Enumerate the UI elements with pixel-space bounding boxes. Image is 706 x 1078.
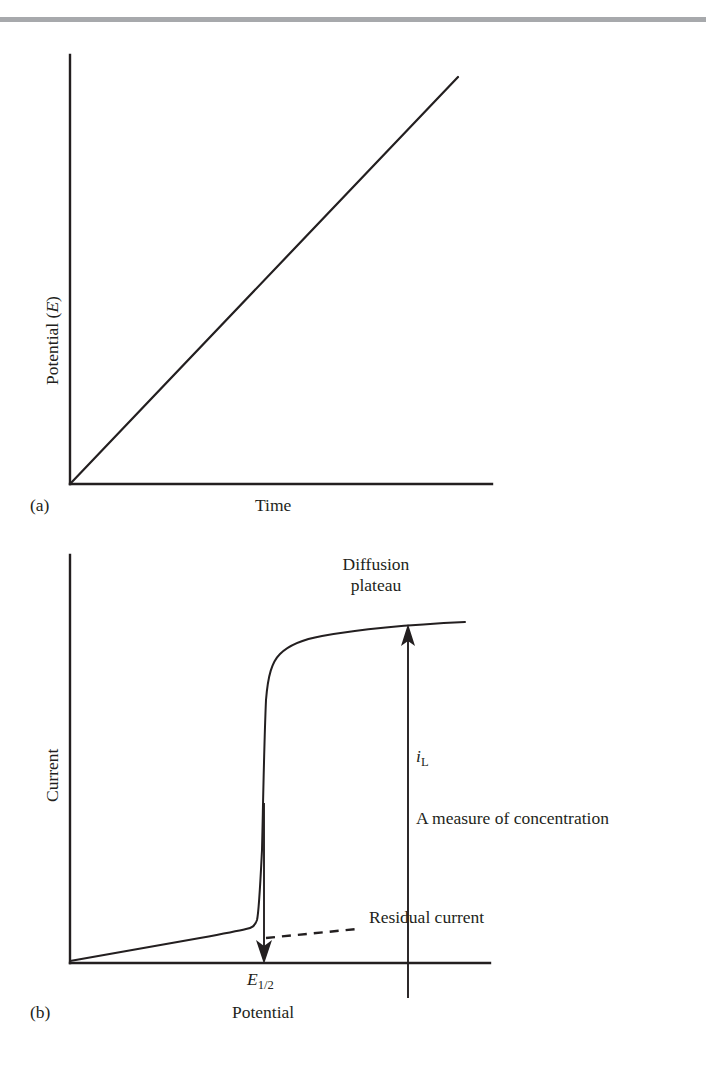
panel-b-polarographic-wave: Current Diffusion plateau iL A measure o… [0,540,706,1050]
panel-b-halfwave-symbol: E [247,969,258,989]
panel-b-residual-dashed-line [266,929,357,938]
header-divider-rule [0,17,706,22]
panel-b-tag: (b) [30,1002,50,1023]
panel-a-ramp-line [70,77,458,484]
panel-b-halfwave-subscript: 1/2 [258,978,274,992]
panel-a-y-axis-label-prefix: Potential ( [42,313,62,385]
panel-b-x-axis-label: Potential [232,1002,294,1023]
figure-root: Potential (E) Time (a) Current Diffusion [0,0,706,1078]
panel-a-tag: (a) [30,495,49,516]
panel-a-x-axis-label: Time [255,495,291,516]
panel-a-plot-svg [0,40,706,540]
panel-b-halfwave-potential-label: E1/2 [247,969,274,992]
panel-b-plot-svg [0,540,706,1050]
panel-a-y-axis-label: Potential (E) [42,296,63,385]
panel-a-y-axis-label-suffix: ) [42,296,62,302]
panel-b-limiting-current-subscript: L [421,755,429,769]
panel-b-diffusion-plateau-line1: Diffusion [343,554,410,574]
panel-b-y-axis-label: Current [42,749,63,802]
panel-b-diffusion-plateau-annotation: Diffusion plateau [316,554,436,597]
panel-b-concentration-note: A measure of concentration [416,808,609,829]
panel-b-limiting-current-label: iL [416,746,429,769]
panel-a-linear-sweep: Potential (E) Time (a) [0,40,706,540]
panel-b-residual-current-label: Residual current [369,907,484,928]
panel-b-diffusion-plateau-line2: plateau [351,575,402,595]
panel-a-y-axis-label-symbol: E [42,302,62,313]
